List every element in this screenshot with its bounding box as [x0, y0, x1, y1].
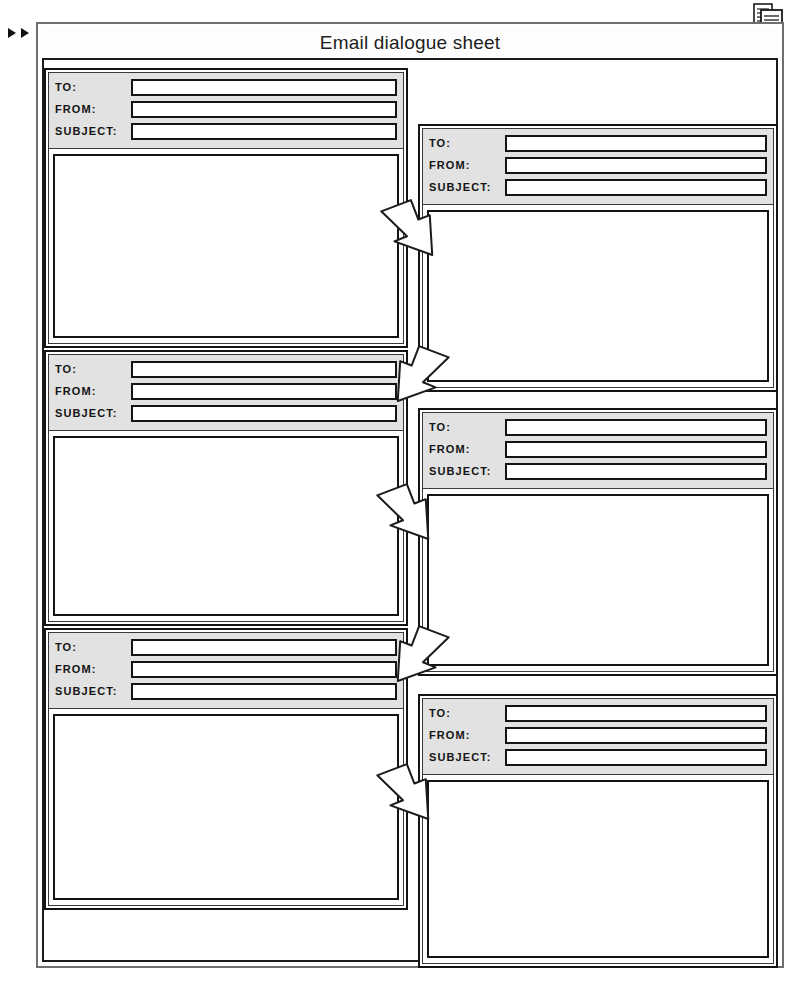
to-label: TO: [55, 638, 131, 657]
email-card[interactable]: TO: FROM: SUBJECT: [44, 350, 408, 626]
field-row-to: TO: [55, 360, 397, 379]
message-body-input[interactable] [427, 780, 769, 958]
field-row-from: FROM: [55, 100, 397, 119]
subject-input[interactable] [131, 123, 397, 140]
subject-input[interactable] [131, 405, 397, 422]
to-label: TO: [429, 704, 505, 723]
field-row-subject: SUBJECT: [429, 748, 767, 767]
subject-input[interactable] [505, 179, 767, 196]
page-title: Email dialogue sheet [42, 28, 778, 60]
field-row-from: FROM: [429, 726, 767, 745]
play-triangle-icon [21, 28, 29, 38]
from-input[interactable] [505, 727, 767, 744]
subject-label: SUBJECT: [429, 178, 505, 197]
play-triangle-icon [8, 28, 16, 38]
subject-input[interactable] [505, 749, 767, 766]
email-card-header: TO: FROM: SUBJECT: [423, 413, 773, 489]
message-body-input[interactable] [427, 494, 769, 666]
email-card[interactable]: TO: FROM: SUBJECT: [418, 408, 778, 676]
subject-label: SUBJECT: [55, 404, 131, 423]
from-label: FROM: [55, 660, 131, 679]
to-label: TO: [55, 360, 131, 379]
from-label: FROM: [429, 440, 505, 459]
message-body-input[interactable] [53, 714, 399, 900]
field-row-from: FROM: [55, 660, 397, 679]
from-label: FROM: [429, 726, 505, 745]
subject-label: SUBJECT: [429, 462, 505, 481]
to-input[interactable] [131, 361, 397, 378]
message-body-input[interactable] [53, 436, 399, 616]
flow-arrow-down-right [370, 762, 452, 824]
flow-arrow-down-left [374, 624, 456, 686]
email-card[interactable]: TO: FROM: SUBJECT: [418, 124, 778, 392]
flow-arrow-down-right [374, 198, 456, 260]
to-input[interactable] [131, 639, 397, 656]
email-card-header: TO: FROM: SUBJECT: [49, 355, 403, 431]
subject-input[interactable] [131, 683, 397, 700]
from-input[interactable] [131, 101, 397, 118]
subject-label: SUBJECT: [55, 682, 131, 701]
message-body-input[interactable] [427, 210, 769, 382]
flow-arrow-down-left [374, 344, 456, 406]
to-input[interactable] [505, 419, 767, 436]
scan-artifact-text [66, 0, 486, 10]
email-card-header: TO: FROM: SUBJECT: [423, 699, 773, 775]
subject-input[interactable] [505, 463, 767, 480]
to-label: TO: [429, 134, 505, 153]
field-row-from: FROM: [429, 440, 767, 459]
from-label: FROM: [429, 156, 505, 175]
to-input[interactable] [131, 79, 397, 96]
to-label: TO: [429, 418, 505, 437]
flow-arrow-down-right [370, 482, 452, 544]
field-row-subject: SUBJECT: [55, 682, 397, 701]
field-row-to: TO: [429, 134, 767, 153]
field-row-to: TO: [55, 638, 397, 657]
margin-markers [8, 28, 29, 38]
to-input[interactable] [505, 705, 767, 722]
field-row-subject: SUBJECT: [429, 178, 767, 197]
field-row-subject: SUBJECT: [55, 122, 397, 141]
field-row-subject: SUBJECT: [429, 462, 767, 481]
email-card-header: TO: FROM: SUBJECT: [423, 129, 773, 205]
from-input[interactable] [505, 441, 767, 458]
field-row-from: FROM: [55, 382, 397, 401]
field-row-to: TO: [429, 418, 767, 437]
from-input[interactable] [131, 661, 397, 678]
email-card-header: TO: FROM: SUBJECT: [49, 73, 403, 149]
field-row-from: FROM: [429, 156, 767, 175]
from-label: FROM: [55, 100, 131, 119]
email-card[interactable]: TO: FROM: SUBJECT: [44, 628, 408, 910]
field-row-to: TO: [55, 78, 397, 97]
field-row-to: TO: [429, 704, 767, 723]
message-body-input[interactable] [53, 154, 399, 338]
email-card[interactable]: TO: FROM: SUBJECT: [44, 68, 408, 348]
from-input[interactable] [505, 157, 767, 174]
from-input[interactable] [131, 383, 397, 400]
from-label: FROM: [55, 382, 131, 401]
email-card[interactable]: TO: FROM: SUBJECT: [418, 694, 778, 968]
field-row-subject: SUBJECT: [55, 404, 397, 423]
to-input[interactable] [505, 135, 767, 152]
subject-label: SUBJECT: [55, 122, 131, 141]
to-label: TO: [55, 78, 131, 97]
email-card-header: TO: FROM: SUBJECT: [49, 633, 403, 709]
